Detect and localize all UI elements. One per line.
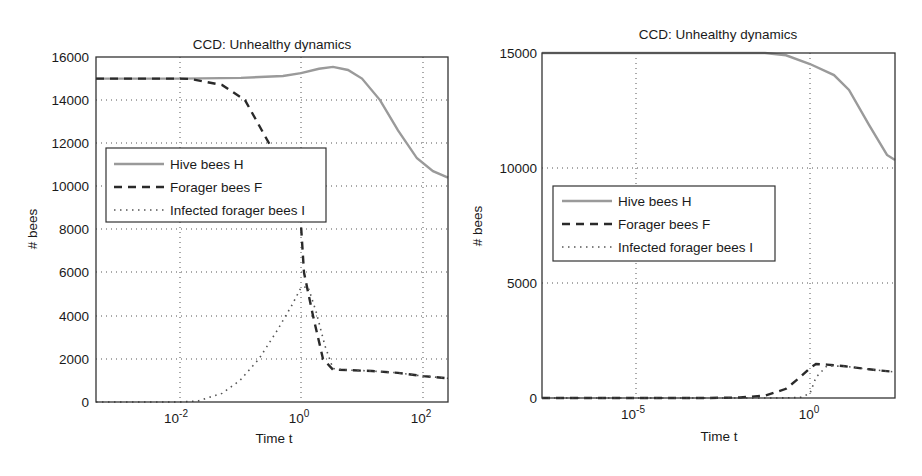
x-tick-label: 100 (289, 408, 310, 426)
series-hive-bees (542, 53, 895, 160)
series-infected-bees (96, 287, 448, 402)
y-tick-label: 4000 (59, 309, 89, 324)
figure: CCD: Unhealthy dynamics (0, 0, 922, 476)
legend-label: Hive bees H (618, 194, 692, 209)
legend: Hive bees H Forager bees F Infected fora… (553, 186, 775, 261)
legend-label: Infected forager bees I (170, 203, 305, 218)
y-tick-label: 0 (529, 391, 537, 406)
legend-label: Infected forager bees I (618, 240, 753, 255)
y-tick-label: 6000 (59, 265, 89, 280)
y-tick-label: 0 (81, 395, 89, 410)
chart-right: CCD: Unhealthy dynamics 0 5000 10000 150… (470, 27, 895, 444)
y-tick-label: 10000 (51, 179, 89, 194)
y-tick-label: 15000 (499, 46, 537, 61)
y-axis-label: # bees (25, 208, 40, 249)
y-tick-label: 16000 (51, 50, 89, 65)
y-tick-label: 5000 (507, 276, 537, 291)
legend-label: Forager bees F (618, 217, 710, 232)
series-forager-bees (542, 364, 895, 398)
x-axis-label: Time t (256, 431, 293, 446)
y-tick-label: 8000 (59, 222, 89, 237)
y-tick-label: 10000 (499, 161, 537, 176)
chart-left: CCD: Unhealthy dynamics (25, 37, 448, 446)
series-infected-bees (542, 366, 895, 398)
y-tick-label: 12000 (51, 136, 89, 151)
y-axis: 0 5000 10000 15000 # bees (470, 46, 537, 406)
x-tick-label: 10-2 (164, 408, 188, 426)
legend: Hive bees H Forager bees F Infected fora… (106, 148, 326, 222)
y-tick-label: 14000 (51, 93, 89, 108)
y-axis: 0 2000 4000 6000 8000 10000 12000 14000 … (25, 50, 89, 410)
x-axis: 10-5 100 Time t (621, 404, 820, 444)
y-tick-label: 2000 (59, 352, 89, 367)
gridlines (96, 57, 448, 402)
x-tick-label: 102 (411, 408, 432, 426)
chart-title: CCD: Unhealthy dynamics (639, 27, 798, 42)
legend-label: Forager bees F (170, 180, 262, 195)
chart-title: CCD: Unhealthy dynamics (193, 37, 352, 52)
x-axis-label: Time t (701, 429, 738, 444)
legend-label: Hive bees H (170, 157, 244, 172)
x-axis: 10-2 100 102 Time t (164, 408, 432, 446)
y-axis-label: # bees (470, 205, 485, 246)
x-tick-label: 100 (799, 404, 820, 422)
x-tick-label: 10-5 (621, 404, 645, 422)
